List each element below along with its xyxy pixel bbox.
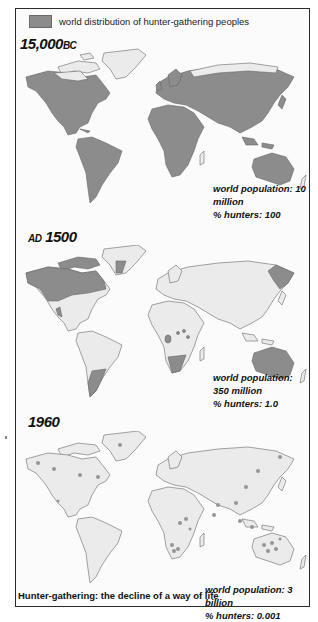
figure-frame: world distribution of hunter-gathering p… — [15, 8, 310, 607]
legend: world distribution of hunter-gathering p… — [29, 15, 249, 28]
period-title-1960: 1960 — [28, 413, 59, 430]
period-title-ad1500: AD 1500 — [28, 228, 77, 245]
scan-artifact — [5, 436, 7, 439]
percent-hunters-label: % hunters: 100 — [213, 208, 309, 221]
stats-1960: world population: 3 billion % hunters: 0… — [205, 583, 309, 622]
figure-caption: Hunter-gathering: the decline of a way o… — [18, 590, 219, 601]
percent-hunters-label: % hunters: 1.0 — [213, 397, 309, 410]
stats-15000bc: world population: 10 million % hunters: … — [213, 182, 309, 221]
world-population-label: world population: 3 billion — [205, 583, 309, 609]
world-map-1960 — [18, 431, 309, 586]
world-population-label: world population: 10 million — [213, 182, 309, 208]
legend-swatch — [29, 15, 52, 28]
percent-hunters-label: % hunters: 0.001 — [205, 609, 309, 622]
stats-ad1500: world population: 350 million % hunters:… — [213, 371, 309, 410]
world-population-label: world population: 350 million — [213, 371, 309, 397]
period-era: AD — [28, 233, 41, 244]
period-year: 1960 — [28, 413, 59, 430]
legend-label: world distribution of hunter-gathering p… — [59, 16, 249, 27]
period-year: 1500 — [45, 228, 76, 245]
